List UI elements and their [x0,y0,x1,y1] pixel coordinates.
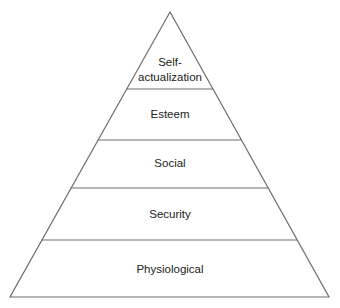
pyramid-outline [10,12,329,297]
pyramid-diagram: Self- actualization Esteem Social Securi… [0,0,340,308]
level-social: Social [154,157,185,169]
level-physiological: Physiological [136,263,203,275]
level-self-actualization-line2: actualization [138,71,202,83]
level-security: Security [149,208,191,220]
level-self-actualization-line1: Self- [158,56,182,68]
level-esteem: Esteem [151,108,190,120]
